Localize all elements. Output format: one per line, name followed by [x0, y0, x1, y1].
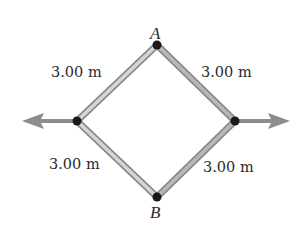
rod-length-top-left: 3.00 m [51, 65, 102, 80]
joint-left [73, 117, 82, 126]
rhombus-diagram: A B 3.00 m 3.00 m 3.00 m 3.00 m [0, 0, 304, 238]
rod-length-bottom-right: 3.00 m [203, 160, 254, 175]
joint-right [231, 117, 240, 126]
vertex-label-a: A [150, 25, 160, 42]
rod-top-right [157, 45, 235, 121]
rod-length-bottom-left: 3.00 m [49, 157, 100, 172]
rod-length-top-right: 3.00 m [201, 65, 252, 80]
right-force-arrow [235, 113, 290, 129]
joint-b [153, 193, 162, 202]
vertex-label-b: B [150, 204, 160, 221]
left-force-arrow [22, 113, 77, 129]
rod-top-left [77, 45, 157, 121]
